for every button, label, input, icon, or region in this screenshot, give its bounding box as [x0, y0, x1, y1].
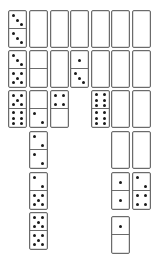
domino-5-6[interactable]: [8, 90, 27, 128]
domino-0-0[interactable]: [29, 50, 48, 88]
pip-icon: [12, 81, 15, 84]
pip-icon: [12, 117, 15, 120]
domino-half-bottom: [9, 68, 26, 87]
pip-icon: [33, 234, 36, 237]
pip-icon: [20, 63, 23, 66]
pip-icon: [41, 194, 44, 197]
domino-0-2[interactable]: [29, 90, 48, 128]
domino-half-top: [30, 213, 47, 231]
domino-2-4[interactable]: [132, 172, 151, 210]
pip-icon: [12, 111, 15, 114]
domino-3-3[interactable]: [8, 10, 27, 48]
domino-4-0[interactable]: [50, 90, 69, 128]
pip-icon: [103, 117, 106, 120]
pip-icon: [33, 216, 36, 219]
domino-2-2[interactable]: [29, 131, 48, 169]
domino-half-bottom: [133, 190, 150, 209]
pip-icon: [95, 93, 98, 96]
pip-icon: [41, 216, 44, 219]
domino-half-bottom: [51, 108, 68, 127]
domino-half-bottom: [112, 190, 129, 209]
domino-half-bottom: [9, 28, 26, 47]
pip-icon: [33, 112, 36, 115]
pip-icon: [12, 32, 15, 35]
pip-icon: [20, 103, 23, 106]
domino-facedown[interactable]: [91, 10, 110, 48]
pip-icon: [136, 203, 139, 206]
pip-icon: [33, 194, 36, 197]
pip-icon: [119, 181, 122, 184]
pip-icon: [103, 122, 106, 125]
domino-half-bottom: [71, 68, 88, 87]
pip-icon: [12, 72, 15, 75]
pip-icon: [54, 94, 57, 97]
pip-icon: [103, 104, 106, 107]
pip-icon: [95, 104, 98, 107]
pip-icon: [12, 122, 15, 125]
domino-half-top: [9, 91, 26, 109]
domino-1-1[interactable]: [111, 172, 130, 210]
domino-1-0[interactable]: [111, 216, 130, 254]
pip-icon: [41, 162, 44, 165]
domino-half-top: [112, 217, 129, 235]
domino-half-bottom: [30, 108, 47, 127]
pip-icon: [20, 111, 23, 114]
domino-facedown[interactable]: [132, 10, 151, 48]
domino-half-bottom: [30, 68, 47, 87]
domino-half-bottom: [30, 149, 47, 168]
domino-facedown[interactable]: [132, 131, 151, 169]
pip-icon: [33, 203, 36, 206]
domino-half-top: [133, 173, 150, 191]
pip-icon: [20, 122, 23, 125]
domino-facedown[interactable]: [132, 90, 151, 128]
domino-3-5[interactable]: [8, 50, 27, 88]
domino-half-bottom: [30, 190, 47, 209]
pip-icon: [95, 117, 98, 120]
domino-facedown[interactable]: [111, 131, 130, 169]
pip-icon: [37, 239, 40, 242]
pip-icon: [144, 194, 147, 197]
domino-facedown[interactable]: [91, 50, 110, 88]
pip-icon: [16, 99, 19, 102]
domino-half-top: [9, 11, 26, 29]
pip-icon: [95, 99, 98, 102]
pip-icon: [41, 234, 44, 237]
domino-1-3[interactable]: [70, 50, 89, 88]
pip-icon: [74, 72, 77, 75]
domino-half-top: [9, 51, 26, 69]
pip-icon: [20, 41, 23, 44]
domino-facedown[interactable]: [50, 50, 69, 88]
pip-icon: [103, 99, 106, 102]
domino-facedown[interactable]: [132, 50, 151, 88]
domino-facedown[interactable]: [70, 10, 89, 48]
pip-icon: [16, 59, 19, 62]
domino-facedown[interactable]: [111, 90, 130, 128]
pip-icon: [136, 194, 139, 197]
pip-icon: [37, 221, 40, 224]
domino-facedown[interactable]: [29, 10, 48, 48]
domino-half-bottom: [92, 108, 109, 127]
pip-icon: [20, 72, 23, 75]
pip-icon: [12, 94, 15, 97]
pip-icon: [33, 135, 36, 138]
pip-icon: [144, 203, 147, 206]
pip-icon: [12, 54, 15, 57]
domino-5-5[interactable]: [29, 212, 48, 250]
domino-half-top: [51, 91, 68, 109]
pip-icon: [103, 93, 106, 96]
pip-icon: [78, 59, 81, 62]
domino-facedown[interactable]: [111, 50, 130, 88]
domino-half-bottom: [112, 234, 129, 253]
domino-half-top: [71, 51, 88, 69]
pip-icon: [33, 176, 36, 179]
pip-icon: [136, 176, 139, 179]
pip-icon: [20, 94, 23, 97]
pip-icon: [20, 81, 23, 84]
domino-2-5[interactable]: [29, 172, 48, 210]
domino-facedown[interactable]: [111, 10, 130, 48]
domino-facedown[interactable]: [50, 10, 69, 48]
domino-half-top: [112, 173, 129, 191]
pip-icon: [41, 203, 44, 206]
domino-6-6[interactable]: [91, 90, 110, 128]
pip-icon: [95, 122, 98, 125]
